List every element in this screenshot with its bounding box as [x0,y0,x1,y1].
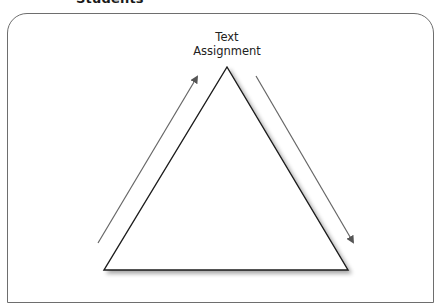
triangle-shape [104,67,348,270]
